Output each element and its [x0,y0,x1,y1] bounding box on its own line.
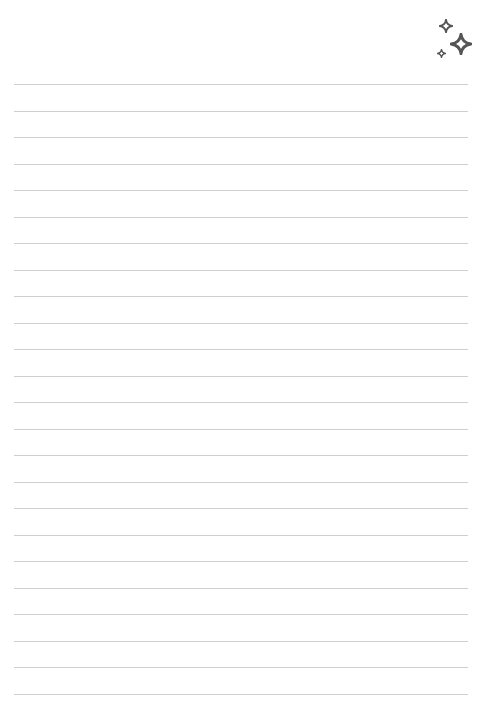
ruled-line [14,667,468,668]
ruled-line [14,641,468,642]
ruled-line [14,111,468,112]
ruled-line [14,508,468,509]
ruled-line [14,243,468,244]
ruled-line [14,190,468,191]
ruled-line [14,561,468,562]
ruled-line [14,296,468,297]
ruled-lines [14,0,468,709]
ruled-line [14,349,468,350]
ruled-line [14,217,468,218]
ruled-line [14,376,468,377]
ruled-line [14,323,468,324]
ruled-line [14,614,468,615]
ruled-line [14,164,468,165]
ruled-line [14,137,468,138]
ruled-line [14,84,468,85]
ruled-line [14,482,468,483]
ruled-line [14,535,468,536]
ruled-line [14,429,468,430]
ruled-line [14,402,468,403]
ruled-line [14,455,468,456]
ruled-line [14,270,468,271]
ruled-line [14,588,468,589]
ruled-line [14,694,468,695]
